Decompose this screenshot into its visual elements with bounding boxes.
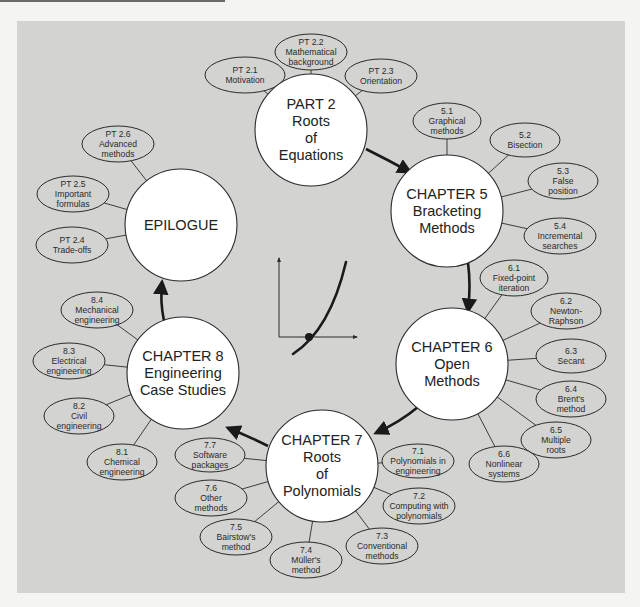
subtopic-text: 8.4 (75, 295, 120, 305)
flow-arrow-part2-to-ch5 (366, 149, 410, 172)
subtopic-text: 6.5 (541, 425, 571, 435)
subtopic-label-s82: 8.2Civilengineering (57, 401, 102, 431)
subtopic-text: formulas (55, 199, 91, 209)
subtopic-text: PT 2.1 (225, 65, 264, 75)
chapter-text: EPILOGUE (144, 217, 218, 234)
subtopic-label-s75: 7.5Bairstow'smethod (217, 522, 256, 552)
flow-arrow-ch8-to-epilogue (161, 282, 164, 321)
subtopic-text: methods (195, 503, 228, 513)
subtopic-text: 7.4 (291, 545, 320, 555)
subtopic-text: Multiple (541, 435, 571, 445)
subtopic-text: Incremental (538, 231, 583, 241)
subtopic-text: Civil (57, 411, 102, 421)
subtopic-text: methods (357, 551, 407, 561)
subtopic-text: engineering (75, 315, 120, 325)
subtopic-text: method (291, 565, 320, 575)
chapter-label-ch6: CHAPTER 6OpenMethods (411, 339, 492, 390)
function-curve (293, 262, 346, 354)
subtopic-text: False (548, 176, 578, 186)
chapter-text: Open (411, 356, 492, 373)
subtopic-label-s52: 5.2Bisection (508, 130, 543, 150)
flow-arrow-ch6-to-ch7 (376, 407, 418, 433)
subtopic-text: Software (192, 450, 229, 460)
chapter-text: Roots (281, 449, 362, 466)
subtopic-text: PT 2.5 (55, 179, 91, 189)
subtopic-label-pt24: PT 2.4Trade-offs (53, 235, 92, 255)
subtopic-text: PT 2.4 (53, 235, 92, 245)
subtopic-text: Brent's (557, 394, 586, 404)
subtopic-label-s62: 6.2Newton-Raphson (549, 296, 583, 326)
subtopic-label-s73: 7.3Conventionalmethods (357, 531, 407, 561)
subtopic-text: Other (195, 493, 228, 503)
subtopic-text: packages (192, 460, 229, 470)
chapter-label-epilogue: EPILOGUE (144, 217, 218, 234)
subtopic-label-s71: 7.1Polynomials inengineering (390, 446, 445, 476)
subtopic-label-pt25: PT 2.5Importantformulas (55, 179, 91, 209)
subtopic-text: 5.3 (548, 166, 578, 176)
subtopic-label-s81: 8.1Chemicalengineering (100, 447, 145, 477)
subtopic-text: Nonlinear (486, 459, 523, 469)
chapter-text: of (281, 466, 362, 483)
subtopic-text: PT 2.2 (285, 37, 336, 47)
subtopic-text: Orientation (360, 76, 402, 86)
subtopic-label-s65: 6.5Multipleroots (541, 425, 571, 455)
subtopic-text: methods (99, 149, 137, 159)
function-root-plot (279, 258, 357, 354)
subtopic-text: Bairstow's (217, 532, 256, 542)
subtopic-text: 7.6 (195, 483, 228, 493)
subtopic-text: 6.3 (558, 346, 585, 356)
subtopic-label-s53: 5.3Falseposition (548, 166, 578, 196)
chapter-text: Roots (279, 113, 344, 130)
subtopic-text: 6.4 (557, 384, 586, 394)
subtopic-text: Fixed-point (493, 273, 536, 283)
chapter-label-ch7: CHAPTER 7RootsofPolynomials (281, 432, 362, 500)
subtopic-text: PT 2.6 (99, 129, 137, 139)
chapter-text: Equations (279, 147, 344, 164)
chapter-text: CHAPTER 5 (406, 186, 487, 203)
subtopic-text: Conventional (357, 541, 407, 551)
subtopic-text: roots (541, 445, 571, 455)
subtopic-label-s77: 7.7Softwarepackages (192, 440, 229, 470)
subtopic-text: method (217, 542, 256, 552)
subtopic-label-s84: 8.4Mechanicalengineering (75, 295, 120, 325)
subtopic-text: 6.1 (493, 263, 536, 273)
subtopic-text: Important (55, 189, 91, 199)
subtopic-label-s72: 7.2Computing withpolynomials (389, 491, 448, 521)
subtopic-text: Mechanical (75, 305, 120, 315)
subtopic-text: Müller's (291, 555, 320, 565)
subtopic-text: 7.1 (390, 446, 445, 456)
chapter-text: CHAPTER 6 (411, 339, 492, 356)
subtopic-text: 8.3 (47, 346, 92, 356)
subtopic-text: engineering (57, 421, 102, 431)
subtopic-text: Mathematical (285, 47, 336, 57)
subtopic-label-s66: 6.6Nonlinearsystems (486, 449, 523, 479)
chapter-label-ch8: CHAPTER 8EngineeringCase Studies (140, 348, 226, 399)
subtopic-text: Electrical (47, 356, 92, 366)
subtopic-text: Trade-offs (53, 245, 92, 255)
subtopic-text: polynomials (389, 511, 448, 521)
subtopic-label-s61: 6.1Fixed-pointiteration (493, 263, 536, 293)
subtopic-label-s51: 5.1Graphicalmethods (429, 106, 466, 136)
subtopic-text: 8.2 (57, 401, 102, 411)
subtopic-text: 8.1 (100, 447, 145, 457)
subtopic-text: 7.3 (357, 531, 407, 541)
subtopic-text: 5.4 (538, 221, 583, 231)
chapter-label-ch5: CHAPTER 5BracketingMethods (406, 186, 487, 237)
subtopic-label-pt23: PT 2.3Orientation (360, 66, 402, 86)
subtopic-text: 6.6 (486, 449, 523, 459)
chapter-text: Methods (406, 220, 487, 237)
subtopic-label-pt22: PT 2.2Mathematicalbackground (285, 37, 336, 67)
subtopic-text: 6.2 (549, 296, 583, 306)
subtopic-text: engineering (390, 466, 445, 476)
chapter-text: of (279, 130, 344, 147)
subtopic-text: 7.5 (217, 522, 256, 532)
chapter-text: PART 2 (279, 96, 344, 113)
subtopic-text: Advanced (99, 139, 137, 149)
subtopic-label-s54: 5.4Incrementalsearches (538, 221, 583, 251)
subtopic-text: 5.1 (429, 106, 466, 116)
chapter-text: Polynomials (281, 483, 362, 500)
chapter-text: Case Studies (140, 382, 226, 399)
chapter-text: Methods (411, 373, 492, 390)
subtopic-text: systems (486, 469, 523, 479)
chapter-text: CHAPTER 8 (140, 348, 226, 365)
